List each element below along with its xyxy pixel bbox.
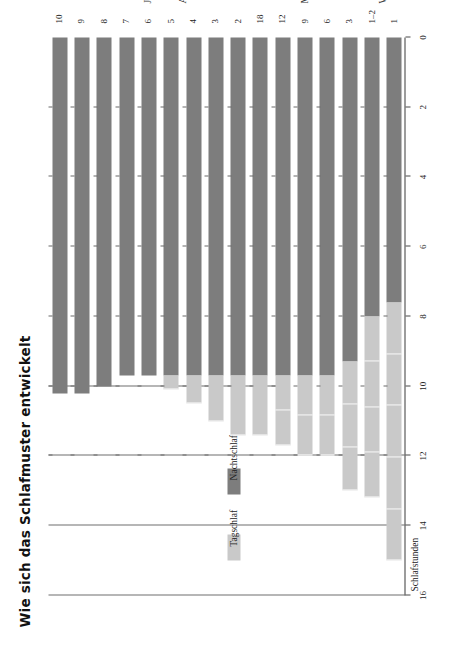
bar-segment-nachtschlaf — [230, 37, 245, 375]
value-axis-tick — [405, 36, 410, 37]
bar-segment-tagschlaf — [342, 361, 357, 404]
category-gridline-tick — [70, 176, 74, 177]
bar-segment-tagschlaf — [342, 447, 357, 490]
category-gridline-tick — [293, 385, 297, 386]
category-gridline-tick — [93, 245, 97, 246]
bar-segment-nachtschlaf — [52, 37, 67, 393]
category-gridline-tick — [383, 176, 387, 177]
category-gridline-tick — [182, 315, 186, 316]
category-label: 6 — [321, 19, 331, 24]
value-axis-title: Schlafstunden — [409, 537, 419, 591]
bar-segment-tagschlaf — [275, 375, 290, 410]
bar-segment-tagschlaf — [275, 410, 290, 445]
category-gridline-tick — [115, 176, 119, 177]
category-gridline-tick — [160, 385, 164, 386]
category-gridline-tick — [204, 106, 208, 107]
category-gridline-tick — [316, 315, 320, 316]
bar-segment-tagschlaf — [319, 415, 334, 455]
bar-row[interactable] — [163, 37, 178, 595]
category-gridline-tick — [48, 245, 52, 246]
category-gridline-tick — [160, 455, 164, 456]
category-gridline-tick — [271, 315, 275, 316]
category-gridline-tick — [160, 106, 164, 107]
category-gridline-tick — [338, 245, 342, 246]
bar-row[interactable] — [386, 37, 401, 595]
bar-row[interactable] — [275, 37, 290, 595]
value-axis-tick — [405, 455, 410, 456]
category-gridline-tick — [360, 315, 364, 316]
category-label: 6 — [142, 19, 152, 24]
bar-row[interactable] — [141, 37, 156, 595]
category-gridline-tick — [271, 106, 275, 107]
bar-segment-tagschlaf — [386, 302, 401, 354]
value-axis-tick-label: 0 — [417, 35, 427, 40]
category-gridline-tick — [338, 315, 342, 316]
category-label: 8 — [98, 19, 108, 24]
bar-segment-tagschlaf — [252, 375, 267, 434]
category-gridline-tick — [249, 245, 253, 246]
category-gridline-tick — [271, 245, 275, 246]
bar-segment-tagschlaf — [364, 407, 379, 452]
category-gridline-tick — [93, 385, 97, 386]
category-gridline-tick — [48, 385, 52, 386]
category-gridline-tick — [137, 315, 141, 316]
category-gridline-tick — [70, 455, 74, 456]
category-gridline-tick — [383, 455, 387, 456]
bar-row[interactable] — [119, 37, 134, 595]
category-label: 12 — [276, 14, 286, 23]
bar-segment-tagschlaf — [364, 452, 379, 497]
bar-segment-tagschlaf — [319, 375, 334, 415]
bar-row[interactable] — [208, 37, 223, 595]
bar-segment-tagschlaf — [386, 509, 401, 561]
bar-segment-nachtschlaf — [141, 37, 156, 375]
bar-segment-nachtschlaf — [96, 37, 111, 386]
category-label: 9 — [75, 19, 85, 24]
bar-row[interactable] — [364, 37, 379, 595]
category-gridline-tick — [93, 176, 97, 177]
category-gridline-tick — [227, 176, 231, 177]
category-gridline-tick — [137, 455, 141, 456]
category-gridline-tick — [316, 245, 320, 246]
category-gridline-tick — [204, 245, 208, 246]
bar-row[interactable] — [96, 37, 111, 595]
value-axis-tick — [405, 524, 410, 525]
category-gridline-tick — [204, 455, 208, 456]
bar-row[interactable] — [342, 37, 357, 595]
bar-row[interactable] — [252, 37, 267, 595]
category-gridline-tick — [360, 106, 364, 107]
category-gridline-tick — [360, 385, 364, 386]
category-label: 4 — [187, 19, 197, 24]
category-label: 1–2 — [366, 10, 376, 24]
bar-row[interactable] — [230, 37, 245, 595]
value-axis-tick-label: 6 — [417, 244, 427, 249]
category-gridline-tick — [293, 245, 297, 246]
value-axis-tick — [405, 245, 410, 246]
value-axis-tick-label: 10 — [417, 381, 427, 390]
bar-row[interactable] — [74, 37, 89, 595]
category-gridline-tick — [70, 106, 74, 107]
category-gridline-tick — [271, 455, 275, 456]
category-gridline-tick — [204, 176, 208, 177]
category-gridline-tick — [338, 176, 342, 177]
category-gridline-tick — [316, 176, 320, 177]
value-axis-tick-label: 14 — [417, 521, 427, 530]
bar-segment-nachtschlaf — [297, 37, 312, 375]
category-gridline-tick — [204, 315, 208, 316]
bar-row[interactable] — [319, 37, 334, 595]
category-gridline-tick — [360, 455, 364, 456]
bar-row[interactable] — [52, 37, 67, 595]
category-label: 7 — [120, 19, 130, 24]
category-gridline-tick — [293, 315, 297, 316]
plot-area: 161412108642011–236912182345678910Wochen… — [48, 37, 405, 595]
category-gridline-tick — [227, 245, 231, 246]
category-gridline-tick — [115, 315, 119, 316]
category-gridline-tick — [271, 385, 275, 386]
category-label: 18 — [254, 14, 264, 23]
category-gridline-tick — [70, 315, 74, 316]
bar-segment-tagschlaf — [364, 361, 379, 406]
category-label: 10 — [53, 14, 63, 23]
category-gridline-tick — [293, 176, 297, 177]
bar-row[interactable] — [297, 37, 312, 595]
bar-row[interactable] — [186, 37, 201, 595]
category-gridline-tick — [316, 385, 320, 386]
